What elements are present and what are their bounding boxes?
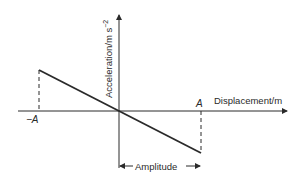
y-axis-label: Acceleration/m s−2 (102, 20, 114, 98)
shm-diagram: Acceleration/m s−2 Displacement/m −A A A… (0, 0, 304, 190)
x-axis-label: Displacement/m (214, 95, 282, 106)
amplitude-label: Amplitude (135, 161, 177, 172)
neg-amplitude-label: −A (26, 114, 39, 125)
pos-amplitude-label: A (195, 98, 203, 109)
